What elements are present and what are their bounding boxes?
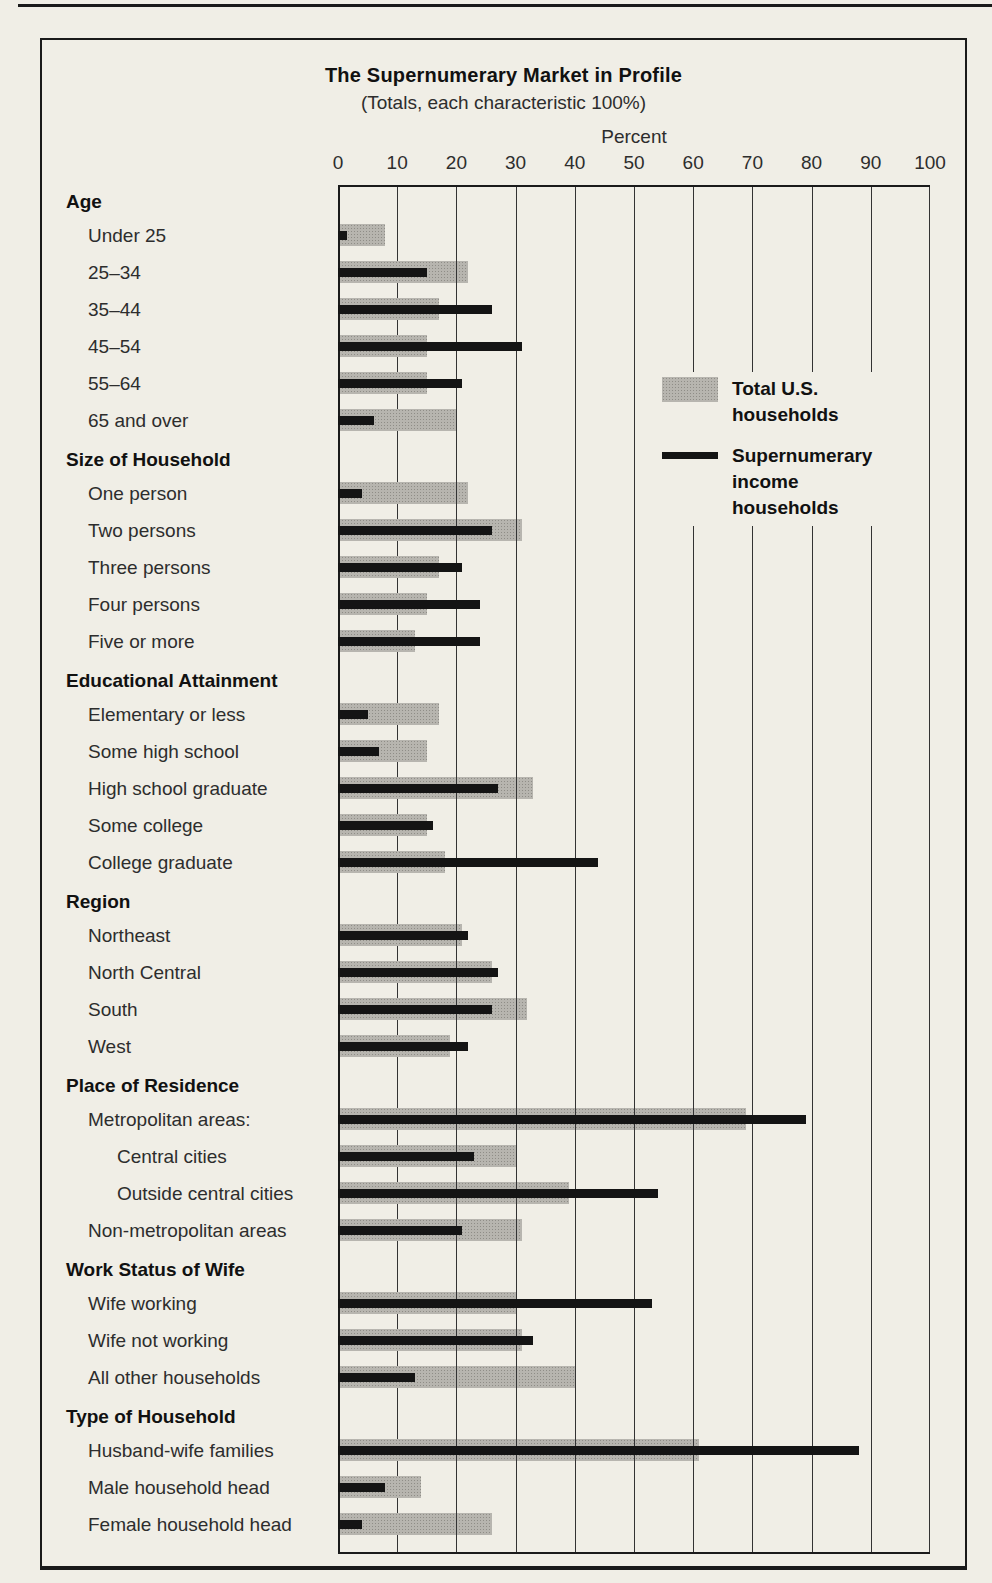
bar-row: North Central — [42, 954, 965, 991]
bar-row: 35–44 — [42, 291, 965, 328]
chart-title: The Supernumerary Market in Profile — [42, 64, 965, 87]
bar-row: Five or more — [42, 623, 965, 660]
black-line-swatch-icon — [662, 452, 718, 459]
bar-row: Four persons — [42, 586, 965, 623]
axis-label-percent: Percent — [338, 126, 930, 148]
chart-subtitle: (Totals, each characteristic 100%) — [42, 92, 965, 114]
bar-supernumerary-income — [338, 1005, 492, 1014]
section-header: Type of Household — [42, 1404, 965, 1432]
row-label: Wife working — [88, 1293, 197, 1315]
bar-row: Non-metropolitan areas — [42, 1212, 965, 1249]
tick-label: 20 — [446, 152, 467, 174]
gridline-20 — [456, 187, 457, 1552]
row-label: North Central — [88, 962, 201, 984]
tick-label: 80 — [801, 152, 822, 174]
bar-supernumerary-income — [338, 489, 362, 498]
bar-row: Metropolitan areas: — [42, 1101, 965, 1138]
bar-supernumerary-income — [338, 747, 379, 756]
tick-label: 100 — [914, 152, 946, 174]
legend-label-supernumerary: Supernumerary income households — [732, 443, 897, 520]
bar-row: Female household head — [42, 1506, 965, 1543]
section-header: Work Status of Wife — [42, 1257, 965, 1285]
bar-supernumerary-income — [338, 637, 480, 646]
bar-row: Husband-wife families — [42, 1432, 965, 1469]
bar-supernumerary-income — [338, 821, 433, 830]
bar-row: South — [42, 991, 965, 1028]
bar-supernumerary-income — [338, 1373, 415, 1382]
row-label: Metropolitan areas: — [88, 1109, 251, 1131]
row-label: Outside central cities — [117, 1183, 293, 1205]
bar-row: Three persons — [42, 549, 965, 586]
bar-supernumerary-income — [338, 379, 462, 388]
bar-supernumerary-income — [338, 305, 492, 314]
tick-label: 0 — [333, 152, 344, 174]
legend-entry-supernumerary: Supernumerary income households — [662, 443, 912, 520]
row-label: 55–64 — [88, 373, 141, 395]
tick-label: 70 — [742, 152, 763, 174]
row-label: Non-metropolitan areas — [88, 1220, 287, 1242]
bar-row: 45–54 — [42, 328, 965, 365]
bar-supernumerary-income — [338, 1336, 533, 1345]
row-label: Northeast — [88, 925, 170, 947]
bar-row: All other households — [42, 1359, 965, 1396]
section-header: Region — [42, 889, 965, 917]
bar-supernumerary-income — [338, 1042, 468, 1051]
bar-supernumerary-income — [338, 1115, 806, 1124]
chart-figure: The Supernumerary Market in Profile (Tot… — [40, 38, 967, 1570]
bar-supernumerary-income — [338, 1299, 652, 1308]
legend: Total U.S. households Supernumerary inco… — [660, 372, 912, 526]
gridline-100 — [929, 187, 930, 1552]
row-label: Three persons — [88, 557, 211, 579]
bar-supernumerary-income — [338, 563, 462, 572]
row-label: High school graduate — [88, 778, 268, 800]
row-label: 45–54 — [88, 336, 141, 358]
page-top-rule — [18, 4, 992, 7]
row-label: One person — [88, 483, 187, 505]
tick-label: 10 — [387, 152, 408, 174]
row-label: All other households — [88, 1367, 260, 1389]
section-header: Age — [42, 189, 965, 217]
row-label: Male household head — [88, 1477, 270, 1499]
bar-supernumerary-income — [338, 968, 498, 977]
bar-supernumerary-income — [338, 526, 492, 535]
row-label: 65 and over — [88, 410, 188, 432]
bar-row: Outside central cities — [42, 1175, 965, 1212]
row-label: Some high school — [88, 741, 239, 763]
bar-row: Central cities — [42, 1138, 965, 1175]
bar-row: Male household head — [42, 1469, 965, 1506]
bar-supernumerary-income — [338, 1152, 474, 1161]
gridline-50 — [634, 187, 635, 1552]
tick-label: 90 — [860, 152, 881, 174]
bar-row: 25–34 — [42, 254, 965, 291]
legend-entry-total-us: Total U.S. households — [662, 376, 912, 427]
bar-supernumerary-income — [338, 342, 522, 351]
bar-row: West — [42, 1028, 965, 1065]
bar-supernumerary-income — [338, 416, 374, 425]
bar-row: High school graduate — [42, 770, 965, 807]
bar-supernumerary-income — [338, 1189, 658, 1198]
row-label: Under 25 — [88, 225, 166, 247]
bar-row: Under 25 — [42, 217, 965, 254]
bar-row: Some college — [42, 807, 965, 844]
bar-supernumerary-income — [338, 1483, 385, 1492]
page: { "colors":{ "paper":"#f0eee6", "bar_gra… — [0, 0, 992, 1583]
row-label: Five or more — [88, 631, 195, 653]
row-label: 25–34 — [88, 262, 141, 284]
gridline-30 — [516, 187, 517, 1552]
row-label: Central cities — [117, 1146, 227, 1168]
section-header: Place of Residence — [42, 1073, 965, 1101]
row-label: 35–44 — [88, 299, 141, 321]
row-label: Female household head — [88, 1514, 292, 1536]
tick-label: 50 — [623, 152, 644, 174]
tick-label: 40 — [564, 152, 585, 174]
row-label: College graduate — [88, 852, 233, 874]
bar-supernumerary-income — [338, 710, 368, 719]
bar-row: College graduate — [42, 844, 965, 881]
bar-supernumerary-income — [338, 231, 347, 240]
row-label: South — [88, 999, 138, 1021]
tick-label: 30 — [505, 152, 526, 174]
section-header: Educational Attainment — [42, 668, 965, 696]
row-label: Four persons — [88, 594, 200, 616]
row-label: West — [88, 1036, 131, 1058]
bar-row: Wife working — [42, 1285, 965, 1322]
